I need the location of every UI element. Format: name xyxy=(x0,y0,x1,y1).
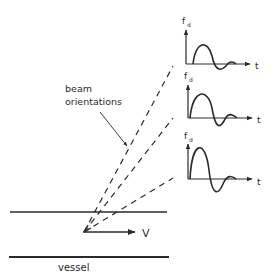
graph-1-x-label: t xyxy=(255,61,259,71)
beam-line-2 xyxy=(84,118,173,232)
vessel-label: vessel xyxy=(58,262,89,273)
graph-2-x-label: t xyxy=(257,115,261,125)
graph-1-y-label: f xyxy=(182,16,186,26)
beam-label-pointer xyxy=(100,112,127,146)
graph-1-y-sub: d xyxy=(187,21,191,28)
beam-line-1 xyxy=(84,66,173,232)
beam-lines xyxy=(84,66,173,232)
velocity-label: V xyxy=(142,227,150,240)
graph-3-y-sub: d xyxy=(189,136,193,143)
beam-label-line1: beam xyxy=(65,83,92,94)
doppler-graph-1: f d t xyxy=(182,16,259,71)
doppler-graph-2: f d t xyxy=(184,71,261,126)
graph-3-x-label: t xyxy=(257,177,261,187)
graph-2-y-sub: d xyxy=(189,76,193,83)
beam-line-3 xyxy=(84,178,173,232)
graph-3-y-label: f xyxy=(184,131,188,141)
beam-origin-arrowhead xyxy=(84,225,91,232)
doppler-graph-3: f d t xyxy=(184,131,261,192)
beam-label-line2: orientations xyxy=(65,96,122,107)
graph-2-y-label: f xyxy=(184,71,188,81)
doppler-beam-diagram: vessel V beam orientations f d t f d t f… xyxy=(0,0,275,279)
